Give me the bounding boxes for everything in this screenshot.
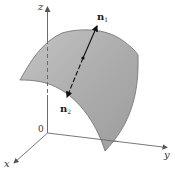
x-axis <box>14 133 48 163</box>
x-axis-label: x <box>4 158 10 169</box>
n2-label: n2 <box>60 103 71 115</box>
z-axis-label: z <box>37 1 44 12</box>
surface-point <box>81 56 84 59</box>
y-axis-label: y <box>163 149 170 160</box>
n1-label: n1 <box>97 11 108 23</box>
origin-label: 0 <box>38 124 44 134</box>
surface-normals-diagram: z x y 0 n1 n2 <box>0 0 175 178</box>
